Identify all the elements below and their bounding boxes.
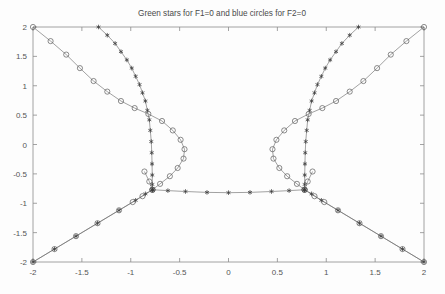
- y-tick-label: -0.5: [13, 170, 27, 179]
- data-point-star: [130, 66, 134, 71]
- chart-title-group: Green stars for F1=0 and blue circles fo…: [138, 9, 306, 18]
- data-point-star: [150, 150, 154, 155]
- data-point-star: [53, 247, 57, 252]
- data-point-star: [143, 99, 147, 104]
- x-tick-label: 2: [422, 268, 427, 277]
- data-point-star: [303, 173, 307, 178]
- plot-area: Green stars for F1=0 and blue circles fo…: [0, 0, 445, 294]
- x-tick-label: -1.5: [75, 268, 89, 277]
- y-tick-label: 0.5: [16, 111, 28, 120]
- data-point-star: [310, 99, 314, 104]
- y-tick-label: -1: [20, 199, 28, 208]
- series-line: [272, 27, 424, 190]
- data-point-star: [305, 128, 309, 133]
- data-point-star: [379, 234, 383, 239]
- data-point-star: [150, 162, 154, 167]
- data-point-star: [357, 221, 361, 226]
- figure-canvas: Green stars for F1=0 and blue circles fo…: [0, 0, 445, 294]
- data-point-star: [145, 108, 149, 113]
- data-point-star: [147, 118, 151, 123]
- series-line: [305, 27, 359, 190]
- data-point-star: [323, 66, 327, 71]
- data-point-star: [319, 74, 323, 79]
- data-point-star: [304, 139, 308, 144]
- data-point-star: [138, 82, 142, 87]
- data-point-star: [96, 221, 100, 226]
- y-tick-label: 0: [23, 141, 28, 150]
- y-tick-label: 1: [23, 82, 28, 91]
- x-tick-label: -1: [127, 268, 135, 277]
- x-tick-label: -0.5: [173, 268, 187, 277]
- data-point-star: [117, 208, 121, 213]
- y-tick-label: -1.5: [13, 229, 27, 238]
- data-point-star: [306, 118, 310, 123]
- data-point-star: [313, 91, 317, 96]
- y-tick-label: -2: [20, 258, 28, 267]
- data-point-star: [336, 208, 340, 213]
- x-tick-label: 0.5: [272, 268, 284, 277]
- y-tick-label: 2: [23, 23, 28, 32]
- x-tick-label: 1.5: [370, 268, 382, 277]
- data-point-star: [308, 108, 312, 113]
- curves-group: [33, 27, 424, 262]
- data-point-star: [303, 162, 307, 167]
- x-tick-label: 0: [226, 268, 231, 277]
- data-point-star: [148, 128, 152, 133]
- data-point-star: [134, 74, 138, 79]
- data-point-star: [303, 150, 307, 155]
- data-point-star: [149, 139, 153, 144]
- x-tick-label: -2: [29, 268, 37, 277]
- chart-title: Green stars for F1=0 and blue circles fo…: [138, 9, 306, 18]
- y-tick-label: 1.5: [16, 52, 28, 61]
- data-point-star: [401, 247, 405, 252]
- data-point-star: [315, 82, 319, 87]
- data-point-star: [150, 173, 154, 178]
- series-line: [33, 27, 185, 190]
- series-line: [98, 27, 152, 190]
- data-point-star: [140, 91, 144, 96]
- x-tick-label: 1: [324, 268, 329, 277]
- markers-group: [30, 24, 426, 264]
- data-point-star: [74, 234, 78, 239]
